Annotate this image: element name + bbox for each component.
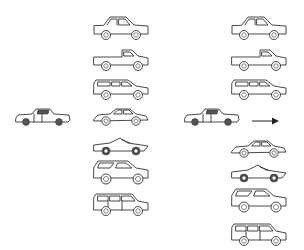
coupe-icon	[92, 107, 150, 127]
car-sketch-icon	[14, 106, 72, 128]
long-wagon-icon	[230, 222, 288, 246]
sports-car-icon	[230, 164, 288, 184]
sedan-icon	[92, 14, 150, 41]
suv-icon	[230, 186, 288, 214]
right-wagon	[230, 77, 288, 100]
sedan-icon	[230, 14, 288, 41]
arrow-right-icon	[252, 112, 280, 130]
right-suv	[230, 186, 288, 214]
sports-car-icon	[92, 137, 150, 157]
station-wagon-icon	[230, 77, 288, 100]
middle-coupe	[92, 107, 150, 127]
right-long-wagon	[230, 222, 288, 246]
pickup-truck-icon	[92, 48, 150, 72]
source-car-left	[14, 106, 72, 128]
middle-sports-car	[92, 137, 150, 157]
middle-suv	[92, 158, 150, 186]
suv-icon	[92, 158, 150, 186]
coupe-icon	[230, 139, 288, 159]
middle-wagon	[92, 77, 150, 100]
middle-long-wagon	[92, 192, 150, 216]
pickup-truck-icon	[230, 48, 288, 72]
car-sketch-icon	[183, 106, 241, 128]
right-pickup	[230, 48, 288, 72]
long-wagon-icon	[92, 192, 150, 216]
station-wagon-icon	[92, 77, 150, 100]
right-sports-car	[230, 164, 288, 184]
right-sedan	[230, 14, 288, 41]
source-car-right	[183, 106, 241, 128]
middle-sedan	[92, 14, 150, 41]
middle-pickup	[92, 48, 150, 72]
right-coupe	[230, 139, 288, 159]
